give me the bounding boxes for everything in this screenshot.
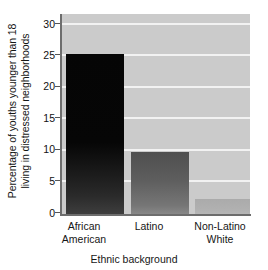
x-tick-label-line-1: Non-Latino xyxy=(184,220,256,233)
y-tick-label-5: 5 xyxy=(33,176,55,186)
x-tick-label-line-2: White xyxy=(184,233,256,246)
y-axis-title-line-2: living in distressed neighborhoods xyxy=(18,24,31,198)
y-tick-label-20: 20 xyxy=(33,81,55,91)
y-tick-label-25: 25 xyxy=(33,50,55,60)
x-tick-label-non-latino-white: Non-Latino White xyxy=(184,220,256,245)
bar-latino xyxy=(131,152,189,215)
x-tick-label-african-american: African American xyxy=(54,220,114,245)
bar-african-american xyxy=(66,54,124,215)
bar-chart-figure: Percentage of youths younger than 18 liv… xyxy=(0,0,268,270)
y-axis-title: Percentage of youths younger than 18 liv… xyxy=(0,0,36,222)
y-axis-line xyxy=(60,14,62,216)
x-tick-label-latino: Latino xyxy=(121,220,177,233)
x-tick-label-line-2: American xyxy=(54,233,114,246)
x-tick-label-line-1: Latino xyxy=(121,220,177,233)
y-tick-label-0: 0 xyxy=(33,208,55,218)
bar-non-latino-white xyxy=(195,199,250,215)
y-axis-tick-labels: 30 25 20 15 10 5 0 xyxy=(33,0,55,222)
y-axis-title-line-1: Percentage of youths younger than 18 xyxy=(6,24,19,198)
plot-area xyxy=(61,14,250,215)
y-tick-label-30: 30 xyxy=(33,19,55,29)
x-tick-label-line-1: African xyxy=(54,220,114,233)
x-axis-title: Ethnic background xyxy=(0,253,268,265)
x-axis-line xyxy=(60,214,251,216)
y-tick-label-15: 15 xyxy=(33,113,55,123)
gridline-30 xyxy=(61,23,250,25)
y-tick-label-10: 10 xyxy=(33,144,55,154)
